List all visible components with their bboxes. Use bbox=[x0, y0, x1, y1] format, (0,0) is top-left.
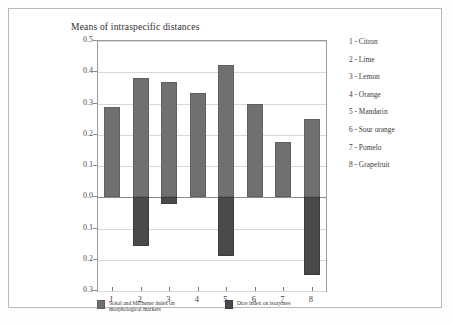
page-title: Means of intraspecific distances bbox=[71, 22, 200, 32]
y-axis-tick-mark bbox=[93, 40, 97, 41]
species-key-item-8: 8 - Grapefruit bbox=[349, 160, 449, 169]
bar-series-group bbox=[98, 41, 326, 291]
y-axis-tick-mark bbox=[93, 134, 97, 135]
y-axis-tick-mark bbox=[93, 259, 97, 260]
figure-frame: Means of intraspecific distances 0.50.40… bbox=[8, 8, 442, 308]
species-key-item-5: 5 - Mandarin bbox=[349, 107, 449, 116]
y-axis-tick-label: 0.2 bbox=[69, 255, 93, 263]
species-key-item-2: 2 - Lime bbox=[349, 55, 449, 64]
species-key-item-4: 4 - Orange bbox=[349, 90, 449, 99]
y-axis-tick-mark bbox=[93, 103, 97, 104]
x-axis-tick-mark bbox=[226, 287, 227, 291]
species-key-list: 1 - Citron2 - Lime3 - Lemon4 - Orange5 -… bbox=[349, 37, 449, 178]
x-axis-tick-mark bbox=[255, 287, 256, 291]
bar-5-series1 bbox=[218, 65, 234, 197]
x-axis-tick-mark bbox=[312, 287, 313, 291]
bar-2-series2 bbox=[133, 197, 149, 245]
y-axis-tick-mark bbox=[93, 196, 97, 197]
legend-swatch-icon bbox=[225, 300, 233, 309]
x-axis-tick-mark bbox=[141, 287, 142, 291]
bar-8-series2 bbox=[304, 197, 320, 275]
y-axis-tick-label: 0.3 bbox=[69, 99, 93, 107]
bar-3-series2 bbox=[161, 197, 177, 204]
y-axis-tick-label: 0.0 bbox=[69, 192, 93, 200]
legend-entry-2: Dice index on isozymes bbox=[225, 300, 291, 309]
y-axis-tick-label: 0.5 bbox=[69, 36, 93, 44]
gridline bbox=[98, 291, 326, 292]
x-axis-tick-mark bbox=[112, 287, 113, 291]
bar-3-series1 bbox=[161, 82, 177, 198]
bar-1-series1 bbox=[104, 107, 120, 198]
y-axis-tick-label: 0.3 bbox=[69, 286, 93, 294]
species-key-item-3: 3 - Lemon bbox=[349, 72, 449, 81]
y-axis-tick-label: 0.1 bbox=[69, 161, 93, 169]
bar-8-series1 bbox=[304, 119, 320, 198]
x-axis-tick-mark bbox=[198, 287, 199, 291]
legend-swatch-icon bbox=[97, 300, 105, 309]
legend-entry-1: Sokal and Michener index on morphologica… bbox=[97, 300, 195, 313]
figure-page: Means of intraspecific distances 0.50.40… bbox=[0, 0, 453, 325]
bar-2-series1 bbox=[133, 78, 149, 198]
species-key-item-6: 6 - Sour orange bbox=[349, 125, 449, 134]
y-axis-tick-label: 0.2 bbox=[69, 130, 93, 138]
species-key-item-1: 1 - Citron bbox=[349, 37, 449, 46]
x-axis-tick-mark bbox=[283, 287, 284, 291]
legend-label: Dice index on isozymes bbox=[237, 300, 291, 306]
chart-legend: Sokal and Michener index on morphologica… bbox=[97, 300, 347, 318]
species-key-item-7: 7 - Pomelo bbox=[349, 143, 449, 152]
chart-plot-area bbox=[97, 40, 327, 292]
bar-7-series1 bbox=[275, 142, 291, 198]
y-axis-tick-mark bbox=[93, 228, 97, 229]
y-axis-tick-label: 0.4 bbox=[69, 67, 93, 75]
y-axis-tick-mark bbox=[93, 165, 97, 166]
y-axis-tick-mark bbox=[93, 290, 97, 291]
bar-4-series1 bbox=[190, 93, 206, 197]
y-axis-tick-label: 0.1 bbox=[69, 224, 93, 232]
bar-5-series2 bbox=[218, 197, 234, 255]
x-axis-tick-mark bbox=[169, 287, 170, 291]
legend-label: Sokal and Michener index on morphologica… bbox=[109, 300, 195, 313]
bar-6-series1 bbox=[247, 104, 263, 198]
y-axis-tick-mark bbox=[93, 71, 97, 72]
